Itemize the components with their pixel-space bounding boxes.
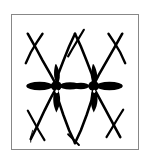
node-right-core bbox=[88, 81, 99, 91]
lobe-far-left bbox=[26, 82, 53, 90]
abstract-lattice-figure bbox=[12, 15, 138, 149]
node-right-highlight bbox=[93, 90, 95, 93]
node-left-highlight bbox=[55, 89, 58, 93]
lobe-mid-right bbox=[73, 83, 90, 90]
figure-container: Symmetric zigzag lattice of thin black s… bbox=[0, 0, 151, 164]
figure-frame-border bbox=[11, 14, 139, 150]
node-left-core bbox=[51, 81, 62, 91]
lobe-far-right bbox=[96, 82, 123, 90]
